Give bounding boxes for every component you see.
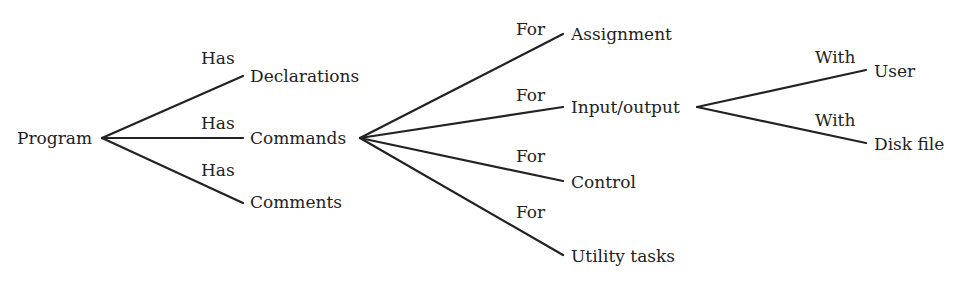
node-disk-file: Disk file [874,134,944,154]
edge-label-commands-assignment: For [516,19,545,39]
edge-label-commands-input-output: For [516,85,545,105]
node-program: Program [17,128,92,148]
edge-label-program-commands: Has [201,113,235,133]
edge-label-program-declarations: Has [201,48,235,68]
edge-label-io-user: With [815,47,855,67]
edge-label-program-comments: Has [201,160,235,180]
edge-label-commands-utility-tasks: For [516,202,545,222]
edge-label-io-disk-file: With [815,110,855,130]
node-user: User [874,61,915,81]
tree-edges [0,0,971,284]
node-input-output: Input/output [571,97,680,117]
node-utility-tasks: Utility tasks [571,246,675,266]
node-comments: Comments [250,192,342,212]
edge-label-commands-control: For [516,146,545,166]
node-commands: Commands [250,128,346,148]
node-assignment: Assignment [571,24,672,44]
edge-io-user [697,70,866,107]
node-declarations: Declarations [250,66,359,86]
node-control: Control [571,172,636,192]
